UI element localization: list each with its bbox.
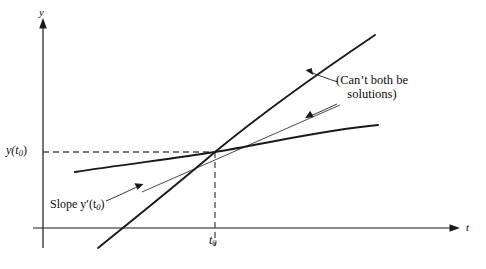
solution-curve-flat <box>75 125 378 172</box>
note-pointer-arrow-lower <box>305 104 337 118</box>
t-axis-arrowhead <box>450 224 461 232</box>
slope-annotation-text: Slope y′(t <box>50 197 96 211</box>
note-line-2: solutions) <box>336 87 408 101</box>
differential-equation-figure: y t y(t0) t0 Slope y′(t0) (Can’t both be… <box>0 0 486 269</box>
slope-annotation-label: Slope y′(t0) <box>50 198 105 213</box>
y-axis <box>39 18 47 248</box>
t-tick-label: t0 <box>209 234 217 249</box>
figure-canvas <box>0 0 486 269</box>
y-axis-label: y <box>39 6 44 19</box>
t-tick-subscript: 0 <box>212 238 216 248</box>
y-value-tick-text: y(t <box>6 143 19 157</box>
y-value-tick-label: y(t0) <box>6 144 27 159</box>
t-axis <box>33 224 460 232</box>
y-value-tick-close: ) <box>23 143 27 157</box>
y-axis-arrowhead <box>39 18 47 29</box>
cant-both-be-solutions-annotation: (Can’t both be solutions) <box>336 73 408 102</box>
tangent-line <box>142 105 340 192</box>
t-axis-label: t <box>466 221 469 234</box>
slope-pointer-arrow <box>106 183 144 201</box>
note-line-1: (Can’t both be <box>336 73 408 87</box>
solution-curve-steep <box>98 35 375 248</box>
slope-annotation-close: ) <box>101 197 105 211</box>
